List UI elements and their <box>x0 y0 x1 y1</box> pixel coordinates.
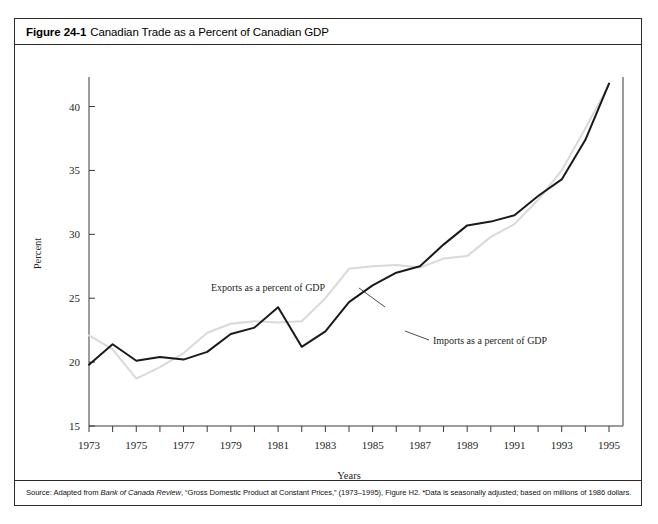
source-rest: , “Gross Domestic Product at Constant Pr… <box>181 488 631 497</box>
chart-area: 1520253035401973197519771979198119831985… <box>15 45 641 480</box>
annotation-label: Imports as a percent of GDP <box>433 335 548 346</box>
series-line-imports <box>89 84 609 365</box>
y-axis-title: Percent <box>32 238 43 270</box>
source-publication: Bank of Canada Review <box>101 488 181 497</box>
x-tick-label: 1983 <box>314 439 337 451</box>
figure-box: Figure 24-1 Canadian Trade as a Percent … <box>14 18 642 506</box>
x-tick-label: 1995 <box>598 439 621 451</box>
source-prefix: Source: Adapted from <box>26 488 101 497</box>
figure-source-note: Source: Adapted from Bank of Canada Revi… <box>15 480 641 504</box>
annotation-leader-line <box>405 331 429 340</box>
annotation-leader-line <box>359 288 385 307</box>
y-tick-label: 25 <box>69 292 81 304</box>
y-tick-label: 40 <box>69 101 81 113</box>
x-axis-title: Years <box>337 470 360 480</box>
x-tick-label: 1987 <box>409 439 432 451</box>
y-tick-label: 15 <box>69 420 81 432</box>
y-tick-label: 30 <box>69 228 81 240</box>
x-tick-label: 1993 <box>551 439 574 451</box>
trade-line-chart: 1520253035401973197519771979198119831985… <box>15 45 643 480</box>
figure-header: Figure 24-1 Canadian Trade as a Percent … <box>15 19 641 45</box>
y-tick-label: 35 <box>69 164 81 176</box>
x-tick-label: 1977 <box>173 439 196 451</box>
x-tick-label: 1973 <box>78 439 101 451</box>
x-tick-label: 1975 <box>125 439 148 451</box>
x-tick-label: 1989 <box>456 439 479 451</box>
x-tick-label: 1981 <box>267 439 289 451</box>
x-tick-label: 1979 <box>220 439 243 451</box>
source-text: Source: Adapted from Bank of Canada Revi… <box>26 488 631 497</box>
figure-title: Canadian Trade as a Percent of Canadian … <box>90 26 329 38</box>
x-tick-label: 1985 <box>362 439 385 451</box>
figure-number: Figure 24-1 <box>26 26 86 38</box>
y-tick-label: 20 <box>69 356 81 368</box>
annotation-label: Exports as a percent of GDP <box>211 282 326 293</box>
x-tick-label: 1991 <box>503 439 525 451</box>
